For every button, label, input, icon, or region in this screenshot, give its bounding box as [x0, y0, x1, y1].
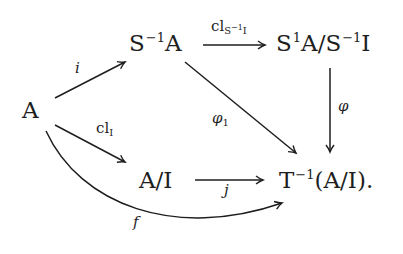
node-t-inv-tail: (A/I). — [315, 167, 374, 193]
node-quotient-p3: I — [361, 30, 370, 56]
label-cl-s-inv-i: clS−1I — [211, 19, 247, 34]
arrow-i — [55, 62, 125, 98]
label-cl-i: clI — [96, 121, 113, 136]
label-i: i — [75, 61, 80, 76]
commutative-diagram: A S−1A S1A/S−1I A/I T−1(A/I). i clI clS−… — [0, 0, 403, 254]
label-cl-s-base: cl — [211, 17, 224, 35]
node-quotient-sup2: −1 — [342, 30, 361, 45]
node-s-inv-a-sup: −1 — [146, 30, 165, 45]
node-quotient-top: S1A/S−1I — [276, 32, 370, 55]
label-j-text: j — [224, 181, 229, 199]
label-cl-i-base: cl — [96, 119, 109, 137]
node-quotient-sup1: 1 — [293, 30, 301, 45]
label-i-text: i — [75, 59, 80, 77]
label-phi-1: φ1 — [212, 111, 229, 126]
label-cl-s-sub: S−1I — [224, 25, 247, 36]
node-quotient-p1: S — [276, 30, 292, 56]
node-s-inv-a-tail: A — [165, 30, 182, 56]
node-t-inv-base: T — [279, 167, 294, 193]
label-phi-1-base: φ — [212, 109, 223, 127]
arrow-cl-i — [55, 125, 125, 162]
label-cl-s-sub-sup: −1 — [231, 23, 243, 32]
node-quotient-p2: A/S — [301, 30, 341, 56]
label-cl-i-sub: I — [109, 127, 113, 138]
label-f-text: f — [133, 213, 139, 231]
node-s-inv-a: S−1A — [129, 32, 182, 55]
arrow-phi-1 — [185, 62, 296, 153]
label-cl-s-sub-tail: I — [243, 25, 247, 36]
node-a: A — [22, 99, 39, 122]
node-a-text: A — [22, 97, 39, 123]
node-t-inv: T−1(A/I). — [279, 169, 373, 192]
label-f: f — [133, 215, 139, 230]
node-t-inv-sup: −1 — [295, 167, 314, 182]
label-phi: φ — [338, 99, 349, 114]
node-a-mod-i-text: A/I — [139, 167, 172, 193]
node-s-inv-a-base: S — [129, 30, 145, 56]
node-a-mod-i: A/I — [139, 169, 172, 192]
label-j: j — [224, 183, 229, 198]
label-phi-1-sub: 1 — [223, 117, 229, 128]
label-phi-text: φ — [338, 97, 349, 115]
